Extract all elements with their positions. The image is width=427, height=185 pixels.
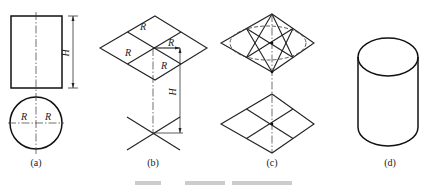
panel-label-b: (b) [147,157,159,169]
panel-d: (d) [358,38,418,169]
panel-label-c: (c) [266,157,277,169]
height-label: H [167,88,178,97]
panel-label-a: (a) [30,157,41,169]
panel-label-d: (d) [384,157,396,169]
panel-c: (c) [221,14,314,169]
radius-label: R [160,60,167,71]
front-view-rectangle [11,16,62,88]
radius-label: R [124,47,131,58]
bottom-rhombus [221,94,314,153]
panel-a: H R R (a) [8,12,78,169]
figure-caption [135,181,292,185]
figure-canvas: H R R (a) R R R R H (b) [0,0,427,185]
height-label: H [60,49,71,58]
cylinder-top [358,38,418,76]
radius-label: R [167,37,174,48]
cylinder-bottom [358,127,418,146]
radius-label: R [44,111,51,122]
radius-label: R [139,21,146,32]
radius-label: R [20,111,27,122]
panel-b: R R R R H (b) [100,16,207,169]
